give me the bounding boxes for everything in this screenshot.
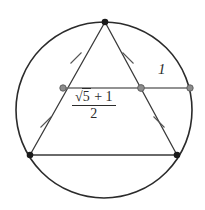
geometry-figure: 1 √5 + 1 2 <box>0 0 205 210</box>
fraction-denominator: 2 <box>72 106 116 121</box>
bottom-left-vertex-marker <box>27 152 34 159</box>
plus-sign: + <box>94 89 102 104</box>
numerator-addend: 1 <box>106 89 113 104</box>
chord-right-point <box>187 85 193 91</box>
tick-upper-left-side <box>71 53 82 64</box>
bottom-right-vertex-marker <box>174 152 181 159</box>
chord-mid-point <box>138 85 145 92</box>
fraction-numerator: √5 + 1 <box>72 90 116 106</box>
radicand: 5 <box>82 88 91 104</box>
apex-vertex-marker <box>102 19 109 26</box>
tick-lower-right-side <box>154 117 165 128</box>
chord-left-point <box>60 85 66 91</box>
unit-length-label: 1 <box>158 62 166 77</box>
fraction: √5 + 1 2 <box>72 90 116 121</box>
golden-ratio-label: √5 + 1 2 <box>72 90 116 121</box>
